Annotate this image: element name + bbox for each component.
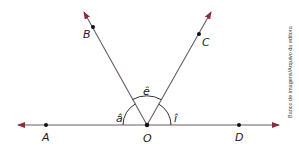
ray-OC [147, 12, 211, 125]
point-B [91, 25, 95, 29]
point-O [145, 123, 149, 127]
point-D [237, 123, 241, 127]
angle-label-a: â [116, 112, 123, 125]
label-A: A [41, 131, 50, 144]
label-D: D [235, 131, 243, 144]
geometry-diagram: A D O B C â ê î Banco de imagens/Arquivo… [0, 0, 299, 152]
angle-label-e: ê [143, 85, 150, 98]
angle-arc-i [159, 104, 171, 125]
angle-label-i: î [174, 112, 178, 125]
ray-OB [84, 12, 147, 125]
point-C [197, 32, 201, 36]
angle-arc-a [123, 104, 135, 125]
label-C: C [202, 36, 210, 49]
label-B: B [83, 28, 91, 41]
image-credit: Banco de imagens/Arquivo da editora [287, 25, 293, 118]
point-A [44, 123, 48, 127]
label-O: O [143, 132, 152, 145]
